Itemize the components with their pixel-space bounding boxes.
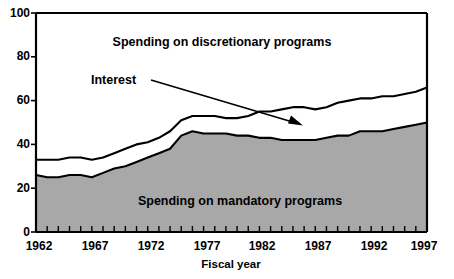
x-axis-title: Fiscal year bbox=[201, 258, 261, 270]
area-chart: 0 20 40 60 80 100 1962 1967 1972 1977 19… bbox=[0, 0, 454, 279]
label-discretionary: Spending on discretionary programs bbox=[113, 35, 332, 49]
x-tick-label-1997: 1997 bbox=[411, 239, 438, 253]
label-interest: Interest bbox=[91, 73, 137, 87]
y-tick-label-80: 80 bbox=[17, 49, 31, 63]
x-tick-label-1967: 1967 bbox=[82, 239, 109, 253]
y-tick-label-60: 60 bbox=[17, 93, 31, 107]
y-axis-tick-labels: 0 20 40 60 80 100 bbox=[10, 6, 30, 239]
x-tick-label-1982: 1982 bbox=[249, 239, 276, 253]
y-tick-label-0: 0 bbox=[23, 225, 30, 239]
y-tick-label-40: 40 bbox=[17, 137, 31, 151]
x-tick-label-1977: 1977 bbox=[194, 239, 221, 253]
x-tick-label-1962: 1962 bbox=[26, 239, 53, 253]
x-tick-label-1987: 1987 bbox=[305, 239, 332, 253]
x-tick-label-1972: 1972 bbox=[138, 239, 165, 253]
y-tick-label-20: 20 bbox=[17, 181, 31, 195]
x-tick-label-1992: 1992 bbox=[361, 239, 388, 253]
y-tick-label-100: 100 bbox=[10, 6, 30, 20]
x-axis-tick-labels: 1962 1967 1972 1977 1982 1987 1992 1997 bbox=[26, 239, 438, 253]
chart-container: 0 20 40 60 80 100 1962 1967 1972 1977 19… bbox=[0, 0, 454, 279]
label-mandatory: Spending on mandatory programs bbox=[138, 194, 342, 208]
